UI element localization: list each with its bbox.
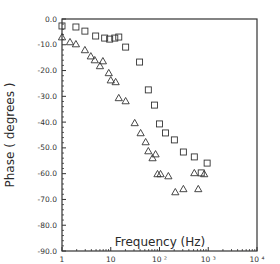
triangle-marker bbox=[145, 147, 152, 153]
triangle-marker bbox=[87, 53, 94, 59]
y-tick-label: -40.0 bbox=[38, 118, 58, 127]
triangle-marker bbox=[115, 94, 122, 100]
y-tick-label: -70.0 bbox=[38, 195, 58, 204]
square-marker bbox=[73, 24, 79, 30]
x-tick-label: 10 ⁴ bbox=[250, 255, 265, 264]
square-marker bbox=[171, 137, 177, 143]
y-tick-label: -50.0 bbox=[38, 143, 58, 152]
triangle-marker bbox=[191, 169, 198, 175]
triangle-marker bbox=[165, 172, 172, 178]
series-squares bbox=[59, 23, 210, 176]
data-series bbox=[58, 23, 210, 195]
series-triangles bbox=[58, 34, 207, 195]
y-axis-title: Phase ( degrees ) bbox=[3, 83, 17, 188]
x-tick-label: 10 ² bbox=[152, 255, 167, 264]
triangle-marker bbox=[137, 129, 144, 135]
triangle-marker bbox=[180, 185, 187, 191]
x-axis: 11010 ²10 ³10 ⁴ bbox=[60, 247, 265, 264]
triangle-marker bbox=[81, 46, 88, 52]
triangle-marker bbox=[91, 56, 98, 62]
square-marker bbox=[82, 28, 88, 34]
x-tick-label: 1 bbox=[60, 255, 65, 264]
y-tick-label: -30.0 bbox=[38, 92, 58, 101]
y-tick-label: -80.0 bbox=[38, 221, 58, 230]
triangle-marker bbox=[105, 69, 112, 75]
triangle-marker bbox=[172, 188, 179, 194]
triangle-marker bbox=[131, 119, 138, 125]
triangle-marker bbox=[142, 138, 149, 144]
triangle-marker bbox=[195, 185, 202, 191]
y-tick-label: -10.0 bbox=[38, 40, 58, 49]
x-tick-label: 10 bbox=[106, 255, 116, 264]
square-marker bbox=[145, 87, 151, 93]
square-marker bbox=[157, 121, 163, 127]
square-marker bbox=[163, 130, 169, 136]
square-marker bbox=[180, 149, 186, 155]
square-marker bbox=[191, 154, 197, 160]
square-marker bbox=[204, 160, 210, 166]
square-marker bbox=[137, 59, 143, 65]
x-axis-title: Frequency (Hz) bbox=[115, 235, 206, 249]
y-tick-label: -60.0 bbox=[38, 169, 58, 178]
phase-frequency-chart: 0.0-10.0-20.0-30.0-40.0-50.0-60.0-70.0-8… bbox=[0, 0, 280, 264]
y-tick-label: -90.0 bbox=[38, 247, 58, 256]
x-tick-label: 10 ³ bbox=[201, 255, 216, 264]
square-marker bbox=[93, 33, 99, 39]
triangle-marker bbox=[66, 38, 73, 44]
square-marker bbox=[123, 44, 129, 50]
square-marker bbox=[152, 102, 158, 108]
y-tick-label: 0.0 bbox=[45, 15, 57, 24]
triangle-marker bbox=[122, 97, 129, 103]
y-tick-label: -20.0 bbox=[38, 66, 58, 75]
